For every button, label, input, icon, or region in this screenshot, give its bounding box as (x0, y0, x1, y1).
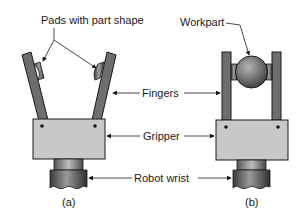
wrist-neck-b (237, 160, 266, 170)
wrist-neck-a (54, 159, 83, 170)
label-pads: Pads with part shape (41, 14, 144, 26)
finger-b-right (272, 52, 281, 120)
label-gripper: Gripper (143, 130, 180, 142)
gripper-b (216, 52, 288, 189)
label-robot-wrist: Robot wrist (134, 172, 189, 184)
robot-wrist-b (233, 170, 270, 189)
gripper-a (22, 52, 116, 189)
label-workpart: Workpart (180, 16, 224, 28)
robot-wrist-a (50, 170, 87, 189)
workpart-ball (236, 56, 268, 88)
gripper-diagram: Pads with part shape Workpart Fingers Gr… (0, 0, 299, 214)
caption-b: (b) (245, 196, 258, 208)
finger-b-left (222, 52, 231, 120)
label-fingers: Fingers (142, 87, 179, 99)
caption-a: (a) (62, 196, 75, 208)
finger-a-left (22, 52, 48, 121)
